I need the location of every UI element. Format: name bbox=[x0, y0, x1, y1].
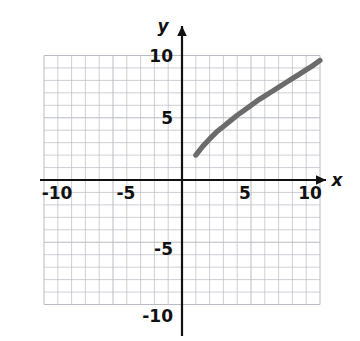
x-tick-label-neg10: -10 bbox=[42, 183, 73, 203]
function-curve bbox=[196, 60, 320, 155]
x-axis-label: x bbox=[331, 170, 344, 190]
y-axis-arrowhead bbox=[177, 26, 187, 36]
curve-group bbox=[196, 60, 320, 155]
y-tick-label-neg5: -5 bbox=[154, 239, 173, 259]
coordinate-plane-figure: x y -10 -5 5 10 10 5 -5 -10 bbox=[0, 0, 360, 341]
y-tick-label-neg10: -10 bbox=[142, 306, 173, 326]
x-tick-label-5: 5 bbox=[239, 183, 251, 203]
y-tick-label-10: 10 bbox=[149, 46, 173, 66]
y-axis-label: y bbox=[157, 16, 169, 36]
graph-canvas: x y -10 -5 5 10 10 5 -5 -10 bbox=[0, 0, 360, 341]
x-tick-label-10: 10 bbox=[298, 183, 322, 203]
x-tick-label-neg5: -5 bbox=[117, 183, 136, 203]
y-tick-label-5: 5 bbox=[161, 108, 173, 128]
